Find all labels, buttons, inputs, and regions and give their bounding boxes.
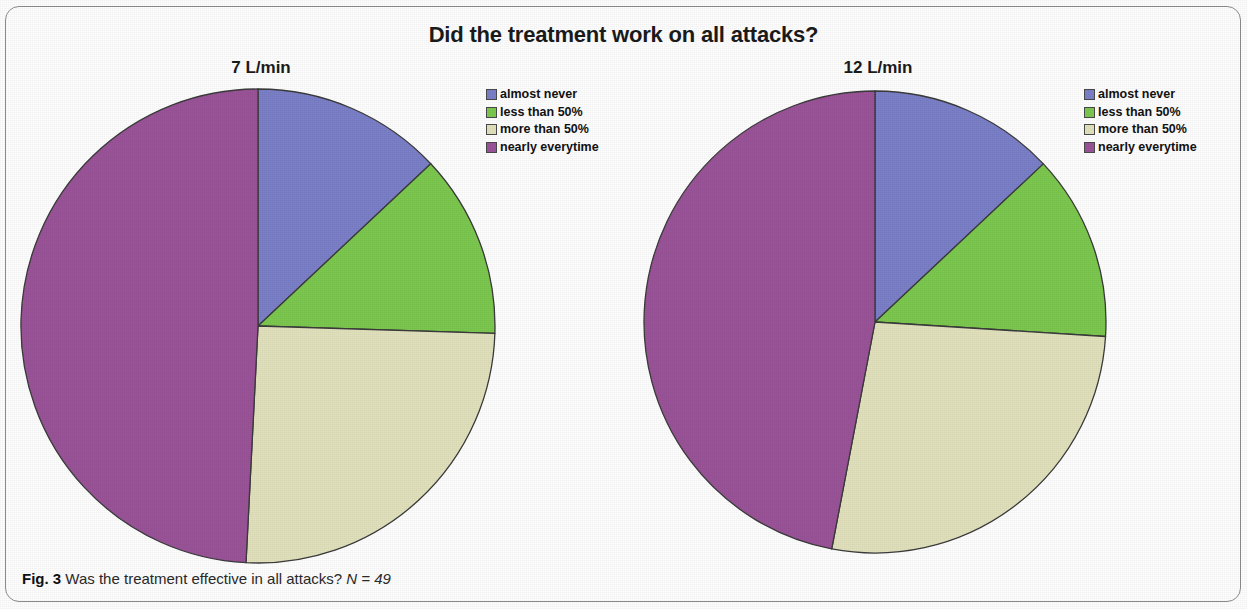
legend-label-almost-never: almost never [500,86,577,104]
legend-item-nearly-everytime: nearly everytime [1084,139,1197,157]
legend-right: almost never less than 50% more than 50%… [1084,86,1197,156]
legend-label-more-than-50: more than 50% [1098,121,1187,139]
legend-item-almost-never: almost never [1084,86,1197,104]
legend-swatch-almost-never [486,89,497,100]
pie-slice-nearly-everytime [644,91,875,549]
legend-left: almost never less than 50% more than 50%… [486,86,599,156]
legend-label-nearly-everytime: nearly everytime [500,139,599,157]
legend-swatch-nearly-everytime [486,142,497,153]
legend-label-more-than-50: more than 50% [500,121,589,139]
legend-item-less-than-50: less than 50% [1084,104,1197,122]
legend-item-more-than-50: more than 50% [1084,121,1197,139]
figure-caption: Fig. 3 Was the treatment effective in al… [22,570,391,587]
legend-item-more-than-50: more than 50% [486,121,599,139]
legend-label-almost-never: almost never [1098,86,1175,104]
caption-figure-label: Fig. 3 [22,570,61,587]
legend-swatch-less-than-50 [1084,107,1095,118]
pie-subtitle-right: 12 L/min [808,58,948,78]
caption-text: Was the treatment effective in all attac… [65,570,342,587]
caption-sample-size: N = 49 [346,570,391,587]
pie-slice-nearly-everytime [21,89,258,563]
legend-item-less-than-50: less than 50% [486,104,599,122]
legend-swatch-more-than-50 [1084,124,1095,135]
legend-item-nearly-everytime: nearly everytime [486,139,599,157]
pie-subtitle-left: 7 L/min [196,58,326,78]
pie-slice-more-than-50 [832,322,1106,553]
pie-chart-12-lmin [641,88,1109,556]
legend-swatch-more-than-50 [486,124,497,135]
legend-swatch-nearly-everytime [1084,142,1095,153]
legend-label-less-than-50: less than 50% [1098,104,1181,122]
figure-container: Did the treatment work on all attacks? 7… [0,0,1247,609]
pie-chart-12-lmin-svg [641,88,1109,556]
legend-item-almost-never: almost never [486,86,599,104]
legend-label-less-than-50: less than 50% [500,104,583,122]
pie-chart-7-lmin-svg [18,86,498,566]
pie-chart-7-lmin [18,86,498,566]
chart-title: Did the treatment work on all attacks? [0,22,1247,48]
legend-swatch-almost-never [1084,89,1095,100]
legend-swatch-less-than-50 [486,107,497,118]
pie-slice-more-than-50 [246,326,495,563]
legend-label-nearly-everytime: nearly everytime [1098,139,1197,157]
